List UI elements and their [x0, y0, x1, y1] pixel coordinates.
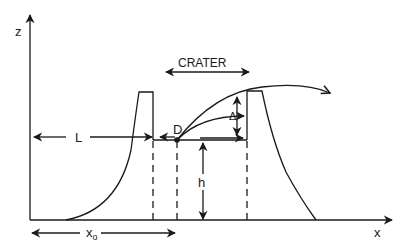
right-crater-rim: [247, 91, 316, 220]
crater-diagram: z x CRATER L D: [0, 0, 411, 251]
delta-label: Δ: [229, 110, 237, 122]
x-axis-label: x: [374, 225, 381, 240]
left-crater-rim: [66, 92, 153, 220]
crater-label: CRATER: [178, 56, 227, 70]
h-label: h: [198, 175, 205, 190]
l-label: L: [75, 130, 82, 145]
z-axis-label: z: [15, 24, 22, 39]
x0-label: xo: [86, 225, 98, 242]
ejecta-trajectory-high: [177, 85, 330, 140]
